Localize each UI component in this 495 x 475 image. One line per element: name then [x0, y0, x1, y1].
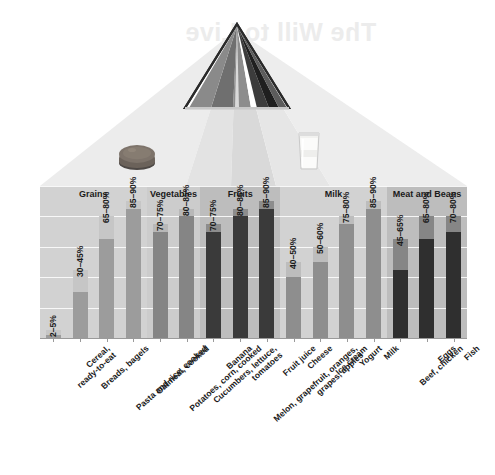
x-axis-tick [213, 339, 214, 342]
mypyramid-icon [181, 22, 291, 112]
x-axis-tick [160, 339, 161, 342]
bar-base-segment [153, 232, 168, 338]
bagel-photo [112, 135, 162, 173]
bar-base-segment [286, 277, 301, 338]
bar-base-segment [259, 209, 274, 338]
bar-base-segment [179, 216, 194, 338]
bar-base-segment [73, 292, 88, 338]
bar[interactable] [313, 247, 328, 338]
x-axis-tick [294, 339, 295, 342]
bar-base-segment [126, 209, 141, 338]
x-axis-tick [107, 339, 108, 342]
figure-canvas: The Will to Live [0, 0, 495, 475]
bar-value-label: 80–85% [235, 185, 245, 216]
bar-base-segment [446, 232, 461, 338]
bar-value-label: 70–75% [155, 200, 165, 231]
bar[interactable] [179, 209, 194, 338]
x-axis-tick [454, 339, 455, 342]
x-axis-tick [320, 339, 321, 342]
water-content-bar-chart: GrainsVegetablesFruitsMilkMeat and Beans… [40, 186, 467, 338]
bar-value-label: 70–75% [208, 200, 218, 231]
x-axis-category-label: Oatmeal, cooked [155, 344, 212, 396]
bar[interactable] [73, 270, 88, 338]
bar[interactable] [259, 201, 274, 338]
x-axis-category-label: Fish [462, 344, 481, 363]
x-axis-tick [267, 339, 268, 342]
x-axis-tick [400, 339, 401, 342]
x-axis-tick [240, 339, 241, 342]
x-axis-tick [133, 339, 134, 342]
bar-value-label: 80–85% [181, 185, 191, 216]
bar[interactable] [366, 201, 381, 338]
bar-value-label: 30–45% [75, 245, 85, 276]
bar-base-segment [393, 270, 408, 338]
bar-base-segment [313, 262, 328, 338]
x-axis-tick [347, 339, 348, 342]
bar-value-label: 50–60% [315, 223, 325, 254]
bar[interactable] [206, 224, 221, 338]
bar-base-segment [206, 232, 221, 338]
bar[interactable] [99, 216, 114, 338]
gridline [40, 186, 467, 187]
x-axis-tick [374, 339, 375, 342]
bar[interactable] [419, 216, 434, 338]
bar-value-label: 45–65% [395, 215, 405, 246]
bar[interactable] [126, 201, 141, 338]
bar-value-label: 65–80% [421, 192, 431, 223]
bar-base-segment [366, 209, 381, 338]
bar[interactable] [286, 262, 301, 338]
bar-value-label: 85–90% [368, 177, 378, 208]
x-axis-category-label: Milk [382, 344, 400, 362]
bar[interactable] [233, 209, 248, 338]
bar[interactable] [339, 216, 354, 338]
bar-value-label: 2–5% [48, 316, 58, 338]
bar[interactable] [393, 239, 408, 338]
x-axis-tick [53, 339, 54, 342]
bar[interactable] [446, 216, 461, 338]
bar[interactable] [153, 224, 168, 338]
x-axis-line [40, 338, 467, 339]
x-axis-tick [427, 339, 428, 342]
x-axis-tick [80, 339, 81, 342]
bar-value-label: 40–50% [288, 238, 298, 269]
bar-value-label: 65–80% [101, 192, 111, 223]
bar-value-label: 85–90% [128, 177, 138, 208]
bar-value-label: 70–80% [448, 192, 458, 223]
group-header-vegetables: Vegetables [147, 189, 200, 199]
bar-base-segment [419, 239, 434, 338]
bar-value-label: 85–90% [261, 177, 271, 208]
glass-of-milk-photo [296, 130, 322, 172]
x-axis-tick [187, 339, 188, 342]
bar-base-segment [99, 239, 114, 338]
bar-base-segment [339, 224, 354, 338]
bar-value-label: 75–80% [341, 192, 351, 223]
bar-base-segment [233, 216, 248, 338]
